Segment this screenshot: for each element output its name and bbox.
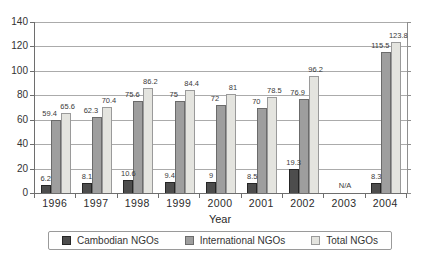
y-tick-mark [30,71,34,72]
bar-value-label: 8.5 [247,173,257,181]
right-tick-mark [407,95,411,96]
bar-value-label: 10.6 [121,170,136,178]
bar-value-label: 6.2 [40,175,50,183]
right-tick-mark [407,22,411,23]
bar-value-label: 86.2 [143,78,158,86]
y-tick-label: 20 [0,164,28,174]
bar-total-ngos [267,97,277,193]
bar-cambodian-ngos [165,182,175,193]
right-tick-mark [407,144,411,145]
legend-label: Total NGOs [326,235,378,246]
bar-international-ngos [299,99,309,193]
legend-swatch [62,236,71,245]
bar-international-ngos [133,101,143,193]
right-tick-mark [407,71,411,72]
bar-value-label: 115.5 [371,42,389,50]
ngo-bar-chart: 020406080100120140 6.259.465.68.162.370.… [0,0,421,264]
bar-value-label: 75.6 [125,91,140,99]
x-axis-labels: 199619971998199920002001200220032004 [34,197,406,209]
bar-cambodian-ngos [289,169,299,193]
y-tick-mark [30,120,34,121]
legend-label: International NGOs [200,235,286,246]
bar-cambodian-ngos [41,185,51,193]
plot-area: 6.259.465.68.162.370.410.675.686.29.4758… [34,22,408,194]
bar-value-label: 19.3 [286,159,301,167]
bar-cambodian-ngos [371,183,381,193]
y-tick-label: 40 [0,139,28,149]
bar-group-2003 [324,22,365,193]
legend-item-international-ngos: International NGOs [185,235,286,246]
x-category-label-2004: 2004 [365,197,406,209]
bar-group-1999 [159,22,200,193]
bar-total-ngos [309,76,319,194]
x-category-label-2000: 2000 [199,197,240,209]
bar-cambodian-ngos [247,183,257,193]
x-axis-title: Year [34,213,406,225]
bar-cambodian-ngos [206,182,216,193]
x-tick-mark [406,194,407,198]
x-category-label-2003: 2003 [323,197,364,209]
x-category-label-2001: 2001 [241,197,282,209]
bar-group-2000 [200,22,241,193]
bar-international-ngos [216,105,226,193]
x-category-label-1998: 1998 [117,197,158,209]
bar-value-label: 59.4 [42,110,57,118]
x-tick-mark [34,194,35,198]
x-tick-mark [241,194,242,198]
bar-value-label: 81 [229,84,237,92]
bar-total-ngos [185,90,195,193]
bar-group-2001 [242,22,283,193]
y-tick-mark [30,144,34,145]
x-category-label-1997: 1997 [75,197,116,209]
bar-value-label: 9 [209,172,213,180]
legend-swatch [311,236,320,245]
x-tick-mark [158,194,159,198]
bar-total-ngos [102,107,112,193]
right-tick-mark [407,120,411,121]
missing-data-label: N/A [339,182,352,190]
y-tick-label: 140 [0,17,28,27]
bar-value-label: 8.3 [371,173,381,181]
bar-total-ngos [391,42,401,193]
x-tick-mark [365,194,366,198]
y-tick-label: 80 [0,90,28,100]
legend-item-total-ngos: Total NGOs [311,235,378,246]
bar-cambodian-ngos [123,180,133,193]
legend: Cambodian NGOsInternational NGOsTotal NG… [48,231,392,250]
y-tick-mark [30,95,34,96]
y-tick-mark [30,46,34,47]
y-tick-mark [30,169,34,170]
bar-value-label: 96.2 [308,66,323,74]
bar-value-label: 123.8 [389,32,408,40]
legend-item-cambodian-ngos: Cambodian NGOs [62,235,159,246]
y-tick-label: 100 [0,66,28,76]
x-tick-mark [282,194,283,198]
bar-total-ngos [61,113,71,193]
bar-international-ngos [92,117,102,193]
bar-value-label: 70.4 [102,97,117,105]
bar-value-label: 76.9 [290,89,305,97]
bar-value-label: 8.1 [82,173,92,181]
bar-value-label: 62.3 [84,107,99,115]
bar-value-label: 84.4 [184,80,199,88]
bar-total-ngos [226,94,236,193]
bar-international-ngos [51,120,61,193]
x-tick-mark [199,194,200,198]
y-tick-label: 0 [0,188,28,198]
x-tick-mark [323,194,324,198]
bar-value-label: 9.4 [164,172,174,180]
right-tick-mark [407,169,411,170]
bar-value-label: 72 [211,95,219,103]
right-tick-mark [407,46,411,47]
legend-label: Cambodian NGOs [77,235,159,246]
x-tick-mark [117,194,118,198]
y-tick-label: 60 [0,115,28,125]
bar-international-ngos [257,108,267,194]
bar-cambodian-ngos [82,183,92,193]
x-tick-mark [75,194,76,198]
bar-value-label: 70 [252,98,260,106]
y-tick-label: 120 [0,41,28,51]
x-category-label-2002: 2002 [282,197,323,209]
x-category-label-1996: 1996 [34,197,75,209]
x-category-label-1999: 1999 [158,197,199,209]
